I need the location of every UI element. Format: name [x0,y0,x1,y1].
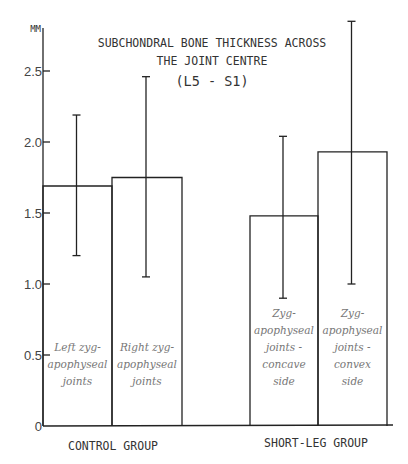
x-axis-line [43,425,393,426]
bar [250,216,318,426]
y-tick-label: 1.5 [24,206,42,221]
y-tick-label: 1.0 [24,277,42,292]
y-tick-label: 2.5 [24,64,42,79]
bar-label: apophyseal [48,358,108,370]
group-label-short-leg: SHORT-LEG GROUP [264,436,368,450]
bar-chart: MM00.51.01.52.02.5 SUBCHONDRAL BONE THIC… [0,0,408,464]
bar-label: joints - [264,341,303,353]
bar-label: apophyseal [117,358,177,370]
bars [43,152,387,426]
title-line: THE JOINT CENTRE [157,54,268,68]
bar-label: apophyseal [323,324,383,336]
title-line: (L5 - S1) [175,73,248,89]
bar-label: side [273,375,295,387]
y-tick-label: 0.5 [24,348,42,363]
bar-label: Zyg- [340,307,365,319]
bar-label: joints - [332,341,371,353]
bar-label: concave [262,358,305,370]
bar-label: Right zyg- [119,341,174,353]
group-label-control: CONTROL GROUP [68,439,158,453]
bar-label: side [342,375,364,387]
bar-label: Zyg- [271,307,296,319]
bar [43,186,112,426]
bar-label: apophyseal [254,324,314,336]
y-axis-unit: MM [30,24,41,34]
bar [112,178,182,427]
bar-label: joints [130,375,162,387]
group-labels: CONTROL GROUPSHORT-LEG GROUP [68,436,368,453]
y-tick-label: 2.0 [24,135,42,150]
title-line: SUBCHONDRAL BONE THICKNESS ACROSS [98,36,327,50]
bar-labels: Left zyg-apophysealjointsRight zyg-apoph… [48,307,383,387]
bar-label: Left zyg- [53,341,101,353]
bar-label: convex [334,358,371,370]
bar-label: joints [61,375,93,387]
y-tick-label: 0 [35,419,42,434]
chart-title: SUBCHONDRAL BONE THICKNESS ACROSSTHE JOI… [98,36,327,89]
